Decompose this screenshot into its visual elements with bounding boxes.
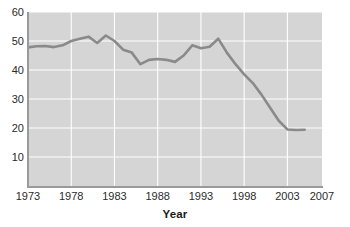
plot-area (28, 12, 322, 186)
x-tick-label: 1993 (178, 190, 224, 203)
y-tick-label: 40 (1, 65, 24, 76)
x-tick-label: 1973 (5, 190, 51, 203)
x-tick-label: 1978 (48, 190, 94, 203)
y-tick-label: 30 (1, 94, 24, 105)
y-tick-label: 60 (1, 7, 24, 18)
data-series-line (28, 12, 322, 186)
y-axis-line (27, 12, 29, 187)
x-tick-label: 1998 (221, 190, 267, 203)
y-tick-label: 10 (1, 152, 24, 163)
line-chart: 102030405060 197319781983198819931998200… (0, 0, 350, 227)
x-axis-line (27, 186, 323, 188)
x-axis-tick-labels: 19731978198319881993199820032007 (0, 190, 350, 206)
x-tick-label: 1983 (91, 190, 137, 203)
x-tick-label: 1988 (135, 190, 181, 203)
series-line-1 (28, 35, 305, 130)
clipped-chart-title (0, 0, 350, 5)
x-axis-title: Year (0, 208, 350, 220)
y-tick-label: 20 (1, 123, 24, 134)
x-tick-label: 2007 (299, 190, 345, 203)
y-tick-label: 50 (1, 36, 24, 47)
